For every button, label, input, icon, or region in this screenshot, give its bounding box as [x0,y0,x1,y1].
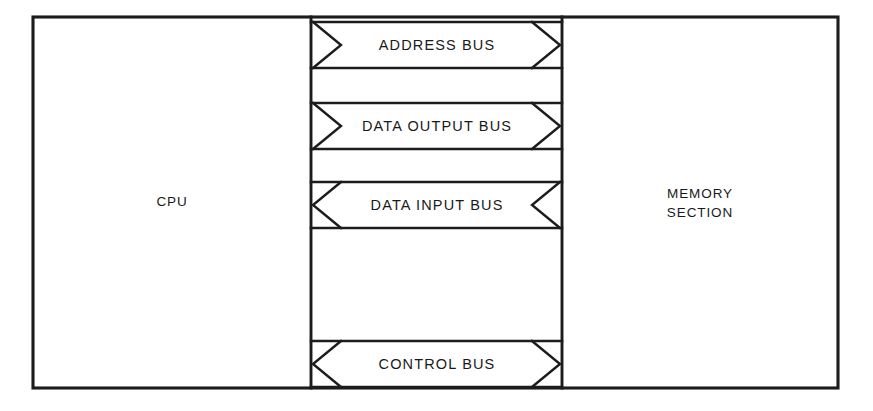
memory-block-label-line-2: SECTION [667,205,733,220]
address-bus-label: ADDRESS BUS [379,37,496,53]
bus-diagram-root: ADDRESS BUS DATA OUTPUT BUS DATA INPUT B… [0,0,873,411]
data-output-bus-label: DATA OUTPUT BUS [362,118,512,134]
memory-block-label-line-1: MEMORY [667,186,733,201]
control-bus-label: CONTROL BUS [379,356,496,372]
bus-diagram-canvas: ADDRESS BUS DATA OUTPUT BUS DATA INPUT B… [0,0,873,411]
data-input-bus-label: DATA INPUT BUS [371,197,504,213]
cpu-block-label: CPU [156,194,187,209]
